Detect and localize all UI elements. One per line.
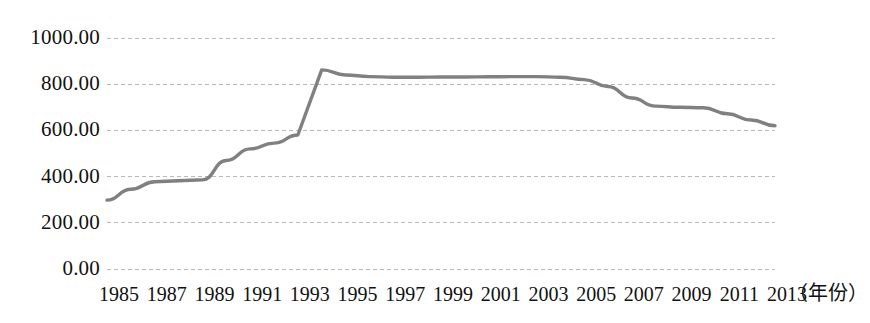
y-axis-tick-labels: 1000.00800.00600.00400.00200.000.00 — [0, 0, 100, 323]
x-tick-label-2001: 2001 — [481, 282, 521, 306]
x-tick-label-1997: 1997 — [385, 282, 425, 306]
data-line-1 — [107, 70, 775, 200]
x-tick-label-1991: 1991 — [242, 282, 282, 306]
chart-page: 1000.00800.00600.00400.00200.000.00 1985… — [0, 0, 870, 323]
x-tick-label-2009: 2009 — [672, 282, 712, 306]
x-tick-label-1999: 1999 — [433, 282, 473, 306]
x-tick-label-2003: 2003 — [528, 282, 568, 306]
y-tick-label-1000.00: 1000.00 — [8, 27, 100, 48]
gridlines — [107, 38, 775, 269]
x-tick-label-1995: 1995 — [338, 282, 378, 306]
x-tick-label-2011: 2011 — [720, 282, 759, 306]
x-tick-label-1985: 1985 — [99, 282, 139, 306]
x-tick-label-1989: 1989 — [194, 282, 234, 306]
y-tick-label-800.00: 800.00 — [8, 73, 100, 94]
y-tick-label-200.00: 200.00 — [8, 212, 100, 233]
x-axis-unit-label: （年份） — [788, 281, 868, 305]
x-tick-label-1993: 1993 — [290, 282, 330, 306]
data-series-layer — [107, 70, 775, 200]
x-tick-label-2007: 2007 — [624, 282, 664, 306]
x-tick-label-2005: 2005 — [576, 282, 616, 306]
y-tick-label-400.00: 400.00 — [8, 166, 100, 187]
plot-area — [107, 38, 775, 269]
x-axis-tick-labels: 1985198719891991199319951997199920012003… — [0, 282, 870, 312]
y-tick-label-0.00: 0.00 — [8, 258, 100, 279]
chart-svg — [107, 38, 775, 269]
y-tick-label-600.00: 600.00 — [8, 119, 100, 140]
x-tick-label-1987: 1987 — [147, 282, 187, 306]
